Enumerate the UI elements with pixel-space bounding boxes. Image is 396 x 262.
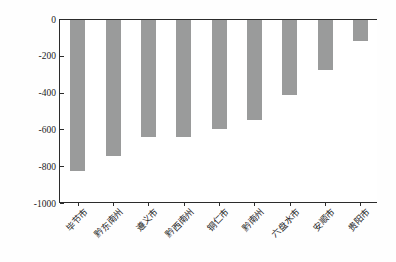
x-axis-tick-mark	[290, 202, 291, 206]
y-axis-tick-label: -200	[39, 49, 56, 63]
x-axis-category-label: 黔南州	[240, 207, 267, 234]
y-axis-tick-label: 0	[51, 13, 56, 27]
x-axis-tick-mark	[219, 202, 220, 206]
x-axis-category-label: 遵义市	[134, 207, 161, 234]
x-axis-category-label: 铜仁市	[205, 207, 232, 234]
y-axis-tick-label: -1000	[34, 197, 56, 211]
x-axis-tick-mark	[254, 202, 255, 206]
x-axis-tick-mark	[184, 202, 185, 206]
x-axis-category-label: 黔西南州	[163, 207, 196, 240]
bar	[247, 20, 262, 121]
x-axis-category-label: 贵阳市	[346, 207, 373, 234]
x-axis-category-label: 安顺市	[311, 207, 338, 234]
bar	[176, 20, 191, 137]
bar	[318, 20, 333, 70]
x-axis-category-label: 毕节市	[64, 207, 91, 234]
plot-area: 0-200-400-600-800-1000	[59, 19, 377, 203]
bars-layer	[60, 20, 377, 202]
x-axis-tick-mark	[325, 202, 326, 206]
bar	[353, 20, 368, 42]
x-axis-category-label: 黔东南州	[93, 207, 126, 240]
x-axis-tick-mark	[360, 202, 361, 206]
bar	[282, 20, 297, 95]
bar	[70, 20, 85, 172]
bar	[212, 20, 227, 129]
bar	[141, 20, 156, 137]
y-axis-tick-label: -800	[39, 160, 56, 174]
bar	[106, 20, 121, 156]
y-axis-tick-label: -600	[39, 123, 56, 137]
x-axis-tick-mark	[78, 202, 79, 206]
y-axis-tick-mark	[60, 203, 64, 204]
x-axis-category-label: 六盘水市	[269, 207, 302, 240]
x-axis-tick-mark	[148, 202, 149, 206]
y-axis-tick-label: -400	[39, 86, 56, 100]
x-axis-tick-mark	[113, 202, 114, 206]
bar-chart: 土壤侵蚀面积变化/km2 0-200-400-600-800-1000 毕节市黔…	[0, 0, 396, 262]
